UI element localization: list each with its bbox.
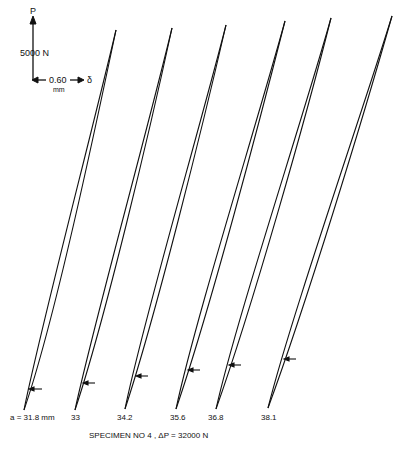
curve-34.2 (125, 25, 226, 409)
arrow-up-icon (30, 16, 36, 24)
disp-scale-label: 0.60 (49, 75, 67, 85)
curve-label-6: 38.1 (261, 413, 277, 422)
curve-label-4: 35.6 (170, 413, 186, 422)
arrow-icon (29, 387, 34, 391)
curve-label-1: a = 31.8 mm (10, 413, 55, 422)
disp-unit-label: mm (53, 86, 65, 93)
arrow-icon (136, 374, 141, 378)
curve-label-5: 36.8 (208, 413, 224, 422)
curve-31.8 (24, 30, 116, 410)
curve-label-2: 33 (71, 413, 80, 422)
curve-label-3: 34.2 (117, 413, 133, 422)
arrow-icon (229, 363, 234, 367)
curve-36.8 (216, 18, 331, 409)
curve-38.1 (268, 16, 392, 408)
p-axis-label: P (30, 6, 36, 16)
delta-axis-label: δ (87, 75, 92, 85)
load-displacement-chart: P 5000 N 0.60 mm δ (0, 0, 407, 456)
arrow-right-icon (78, 77, 84, 83)
load-scale-label: 5000 N (20, 48, 49, 58)
chart-caption: SPECIMEN NO 4 , ΔP = 32000 N (89, 431, 208, 440)
hysteresis-curves (24, 16, 392, 410)
curve-33 (75, 28, 172, 410)
